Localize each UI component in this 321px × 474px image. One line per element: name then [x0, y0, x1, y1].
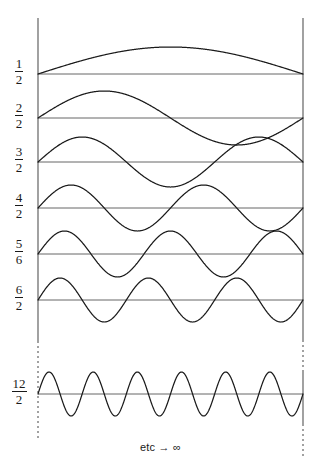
fraction-numerator: 1: [14, 57, 25, 71]
harmonics-figure: 122232425662122 etc → ∞: [0, 0, 321, 474]
fraction-denominator: 2: [14, 298, 25, 312]
wave-curve-mode-1: [38, 47, 303, 74]
fraction-denominator: 2: [11, 392, 28, 406]
fraction-numerator: 12: [11, 377, 28, 391]
harmonic-label-mode-4: 42: [4, 191, 34, 221]
fraction-mode-1: 12: [14, 57, 25, 86]
harmonic-label-mode-5: 56: [4, 237, 34, 267]
fraction-denominator: 6: [14, 252, 25, 266]
fraction-numerator: 6: [14, 283, 25, 297]
harmonic-label-mode-12: 122: [4, 377, 34, 407]
fraction-denominator: 2: [14, 72, 25, 86]
fraction-numerator: 5: [14, 237, 25, 251]
fraction-numerator: 3: [14, 145, 25, 159]
figure-caption: etc → ∞: [0, 441, 321, 453]
fraction-denominator: 2: [14, 160, 25, 174]
fraction-numerator: 4: [14, 191, 25, 205]
fraction-mode-6: 62: [14, 283, 25, 312]
harmonic-label-mode-2: 22: [4, 101, 34, 131]
fraction-mode-4: 42: [14, 191, 25, 220]
fraction-numerator: 2: [14, 101, 25, 115]
harmonic-label-mode-3: 32: [4, 145, 34, 175]
harmonic-label-mode-1: 12: [4, 57, 34, 87]
fraction-mode-5: 56: [14, 237, 25, 266]
fraction-denominator: 2: [14, 116, 25, 130]
harmonic-label-mode-6: 62: [4, 283, 34, 313]
fraction-mode-2: 22: [14, 101, 25, 130]
fraction-mode-12: 122: [11, 377, 28, 406]
harmonics-plot: [0, 0, 321, 474]
fraction-mode-3: 32: [14, 145, 25, 174]
fraction-denominator: 2: [14, 206, 25, 220]
